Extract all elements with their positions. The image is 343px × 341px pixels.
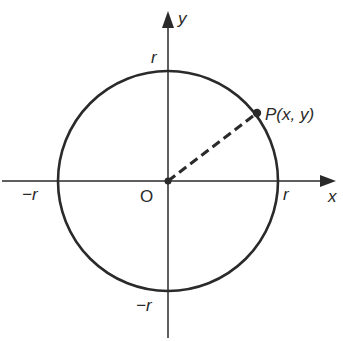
y-axis-label: y <box>177 9 188 28</box>
radius-label-right: r <box>283 185 290 204</box>
point-p <box>253 109 261 117</box>
origin-label: O <box>140 187 153 206</box>
origin-point <box>165 178 172 185</box>
radius-label-bottom: −r <box>136 296 153 315</box>
x-axis-label: x <box>327 187 337 206</box>
x-axis-arrow-icon <box>320 175 336 187</box>
radius-label-left: −r <box>22 185 39 204</box>
circle-diagram: y x r r −r −r O P(x, y) <box>0 0 343 341</box>
y-axis-arrow-icon <box>162 11 174 28</box>
radius-line <box>168 113 257 181</box>
radius-label-top: r <box>151 48 158 67</box>
y-axis <box>162 11 174 338</box>
point-p-label: P(x, y) <box>265 105 314 124</box>
